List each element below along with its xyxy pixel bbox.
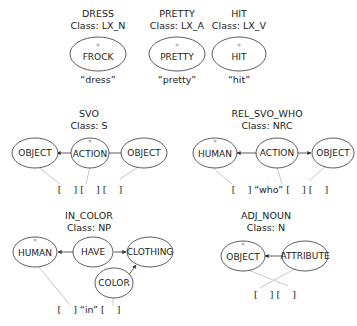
construction-name: PRETTY <box>159 8 195 19</box>
construction-name: HIT <box>231 8 247 19</box>
head-marker-icon: * <box>96 43 100 52</box>
head-marker-icon: * <box>237 43 241 52</box>
construction-class: Class: N <box>247 222 285 233</box>
node-label: ACTION <box>260 148 294 158</box>
slot-sequence: [ ] “in” [ ] <box>57 304 120 315</box>
slot-sequence: [ ] [ ] <box>254 289 296 300</box>
construction-pretty: PRETTY Class: LX_A * PRETTY “pretty” <box>149 8 205 85</box>
slot-link <box>38 266 70 305</box>
slot-link <box>211 166 232 184</box>
head-marker-icon: * <box>213 139 217 148</box>
slot-link <box>37 166 60 184</box>
node-label: FROCK <box>83 52 115 62</box>
node-label: OBJECT <box>18 148 52 158</box>
slot-link <box>86 167 90 184</box>
head-marker-icon: * <box>88 139 92 148</box>
construction-class: Class: NP <box>67 222 111 233</box>
slot-link <box>277 167 282 184</box>
node-label: OBJECT <box>226 252 260 262</box>
construction-name: IN_COLOR <box>65 210 113 221</box>
word-form: “hit” <box>228 74 250 85</box>
construction-name: ADJ_NOUN <box>241 210 291 221</box>
node-label: OBJECT <box>127 148 161 158</box>
construction-class: Class: LX_V <box>212 20 267 31</box>
slot-link <box>120 166 140 179</box>
construction-svo: SVO Class: S OBJECT * ACTION OBJECT [ ] … <box>12 108 167 195</box>
construction-name: SVO <box>79 108 99 119</box>
node-label: HUMAN <box>198 149 232 159</box>
slot-sequence: [ ] “who” [ ] [ ] <box>232 184 328 195</box>
node-label: ACTION <box>73 149 107 159</box>
word-form: “dress” <box>80 74 115 85</box>
node-label: ATTRIBUTE <box>280 251 329 261</box>
node-label: HIT <box>232 52 247 62</box>
construction-class: Class: S <box>70 120 107 131</box>
construction-in-color: IN_COLOR Class: NP * HUMAN HAVE CLOTHING… <box>13 210 173 315</box>
node-label: PRETTY <box>160 52 194 62</box>
head-marker-icon: * <box>33 238 37 247</box>
node-label: CLOTHING <box>127 247 174 257</box>
node-label: HUMAN <box>18 248 52 258</box>
construction-dress: DRESS Class: LX_N * FROCK “dress” <box>70 8 126 85</box>
construction-class: Class: LX_A <box>150 20 205 31</box>
construction-hit: HIT Class: LX_V * HIT “hit” <box>212 8 267 85</box>
construction-class: Class: LX_N <box>71 20 126 31</box>
slot-link <box>309 166 326 181</box>
construction-diagram: DRESS Class: LX_N * FROCK “dress” PRETTY… <box>0 0 357 326</box>
slot-sequence: [ ] [ ] [ ] <box>58 184 123 195</box>
node-label: OBJECT <box>316 148 350 158</box>
construction-rel-svo-who: REL_SVO_WHO Class: NRC * HUMAN ACTION OB… <box>193 108 354 195</box>
construction-class: Class: NRC <box>241 120 292 131</box>
word-form: “pretty” <box>158 74 197 85</box>
node-label: HAVE <box>81 247 106 257</box>
construction-name: REL_SVO_WHO <box>231 108 302 119</box>
node-label: COLOR <box>98 278 129 288</box>
head-marker-icon: * <box>241 242 245 251</box>
construction-adj-noun: ADJ_NOUN Class: N * OBJECT ATTRIBUTE [ ]… <box>221 210 330 300</box>
construction-name: DRESS <box>82 8 114 19</box>
head-marker-icon: * <box>175 43 179 52</box>
